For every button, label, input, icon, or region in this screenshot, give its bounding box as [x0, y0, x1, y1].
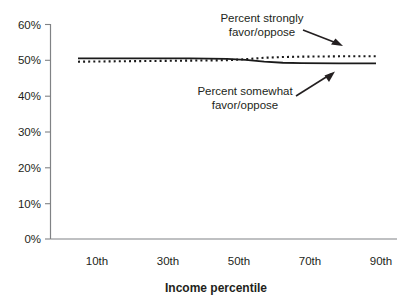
annotation-strongly-arrow-head: [331, 39, 343, 47]
y-axis-tick-labels: 60% 50% 40% 30% 20% 10% 0%: [18, 19, 41, 246]
y-tick-label-10: 10%: [18, 198, 41, 210]
y-tick-label-60: 60%: [18, 19, 41, 31]
x-axis-tick-labels: 10th 30th 50th 70th 90th: [86, 255, 392, 267]
annotation-somewhat-arrow-head: [325, 72, 336, 83]
x-tick-label-70th: 70th: [299, 255, 321, 267]
annotation-somewhat-line2: favor/oppose: [212, 99, 279, 111]
y-tick-label-40: 40%: [18, 90, 41, 102]
y-axis-ticks: [45, 25, 51, 240]
data-series-group: [78, 56, 376, 63]
annotation-strongly-line2: favor/oppose: [229, 26, 296, 38]
x-tick-label-30th: 30th: [157, 255, 179, 267]
annotation-strongly: Percent strongly favor/oppose: [220, 12, 343, 46]
annotation-somewhat: Percent somewhat favor/oppose: [197, 72, 335, 112]
annotation-strongly-line1: Percent strongly: [220, 12, 303, 24]
line-chart: 60% 50% 40% 30% 20% 10% 0% 10th 30th 50t…: [0, 0, 414, 300]
y-tick-label-50: 50%: [18, 54, 41, 66]
annotation-somewhat-line1: Percent somewhat: [197, 85, 293, 97]
y-tick-label-30: 30%: [18, 126, 41, 138]
x-tick-label-50th: 50th: [228, 255, 250, 267]
chart-container: 60% 50% 40% 30% 20% 10% 0% 10th 30th 50t…: [0, 0, 414, 300]
x-axis-title: Income percentile: [165, 281, 267, 295]
x-tick-label-90th: 90th: [370, 255, 392, 267]
x-tick-label-10th: 10th: [86, 255, 108, 267]
y-tick-label-20: 20%: [18, 162, 41, 174]
y-tick-label-0: 0%: [24, 233, 41, 245]
